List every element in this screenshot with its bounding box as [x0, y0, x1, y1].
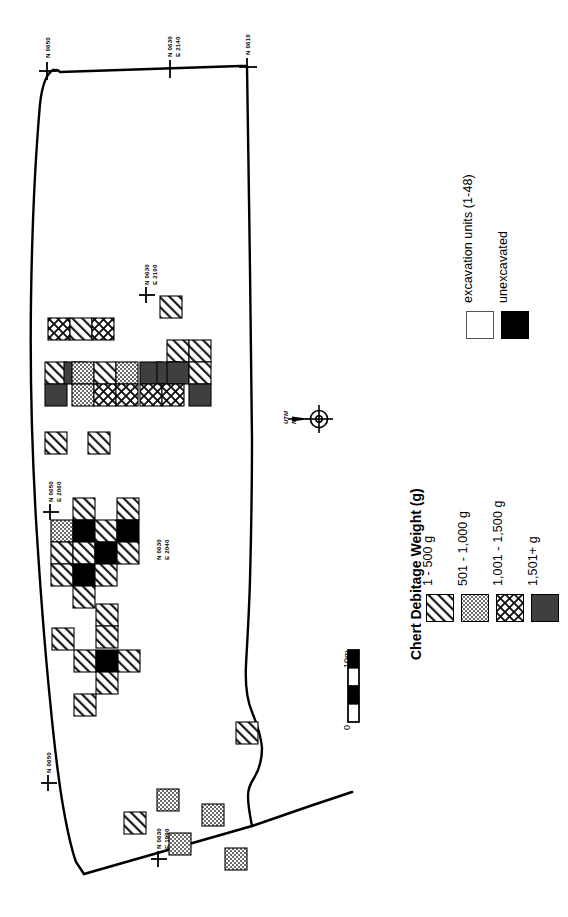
coord-label-n0630-e2040: N 0630E 2040 — [155, 539, 171, 560]
coord-label-n0630-e2140: N 0630E 2140 — [166, 36, 182, 57]
excavation-unit-cell — [96, 604, 118, 626]
excavation-unit-cell — [202, 804, 224, 826]
excavation-unit-cell — [73, 542, 95, 564]
excavation-unit-cell — [92, 318, 114, 340]
excavation-unit-cell — [117, 542, 139, 564]
legend-swatch-unexcavated — [501, 311, 529, 339]
excavation-unit-cell — [189, 362, 211, 384]
figure-canvas: N 0650 N 0630E 2140 N 0610 N 0630E 2100 … — [0, 0, 568, 917]
excavation-unit-cell — [189, 384, 211, 406]
excavation-unit-cell — [124, 812, 146, 834]
excavation-unit-cell — [160, 296, 182, 318]
coord-label-n0650-e2060: N 0650E 2060 — [47, 481, 63, 502]
north-arrow-label-utm: UTM — [283, 411, 290, 424]
excavation-unit-cell — [51, 520, 73, 542]
excavation-unit-cell — [236, 722, 258, 744]
legend-swatch-excavation-units — [466, 311, 494, 339]
site-map — [0, 0, 568, 917]
excavation-unit-cell — [116, 384, 138, 406]
excavation-unit-cell — [70, 318, 92, 340]
excavation-unit-cell — [94, 384, 116, 406]
excavation-unit-cell — [162, 384, 184, 406]
excavation-unit-cell — [51, 564, 73, 586]
legend-label-1501plus-g: 1,501+ g — [527, 536, 540, 586]
excavation-unit-cell — [225, 848, 247, 870]
excavation-unit-cell — [157, 789, 179, 811]
excavation-unit-cell — [96, 672, 118, 694]
excavation-unit-cell — [74, 650, 96, 672]
excavation-unit-cell — [117, 498, 139, 520]
excavation-unit-cell — [73, 498, 95, 520]
excavation-unit-cell — [51, 542, 73, 564]
site-boundary — [31, 66, 352, 874]
excavation-unit-cell — [117, 520, 139, 542]
coord-label-n0650-top: N 0650 — [44, 37, 52, 58]
legend-label-1-500g: 1 - 500 g — [422, 536, 435, 586]
excavation-unit-cell — [72, 362, 94, 384]
excavation-unit-cell — [94, 362, 116, 384]
excavation-unit-cell — [73, 564, 95, 586]
legend-label-unexcavated: unexcavated — [497, 231, 510, 303]
excavation-unit-cell — [45, 432, 67, 454]
excavation-unit-cell — [96, 650, 118, 672]
excavation-unit-cell — [189, 340, 211, 362]
excavation-unit-cell — [96, 626, 118, 648]
excavation-unit-cell — [167, 362, 189, 384]
excavation-unit-cell — [52, 628, 74, 650]
excavation-unit-cell — [74, 694, 96, 716]
excavation-unit-cell — [95, 520, 117, 542]
coord-label-n0630-e1990: N 0630E 1990 — [155, 828, 171, 849]
excavation-unit-cell — [88, 432, 110, 454]
excavation-unit-grid — [45, 296, 258, 870]
legend-label-501-1000g: 501 - 1,000 g — [457, 511, 470, 586]
coord-label-n0650-bottom: N 0650 — [45, 752, 53, 773]
excavation-unit-cell — [48, 318, 70, 340]
excavation-unit-cell — [118, 650, 140, 672]
legend-label-1001-1500g: 1,001 - 1,500 g — [492, 500, 505, 586]
legend-swatch-1001-1500g — [496, 594, 524, 622]
excavation-unit-cell — [95, 564, 117, 586]
legend-swatch-1-500g — [426, 594, 454, 622]
excavation-unit-cell — [73, 520, 95, 542]
excavation-unit-cell — [167, 340, 189, 362]
excavation-unit-cell — [45, 384, 67, 406]
legend-label-excavation-units: excavation units (1-48) — [462, 174, 475, 303]
north-arrow — [270, 388, 336, 452]
excavation-unit-cell — [72, 384, 94, 406]
coordinate-ticks — [39, 58, 257, 867]
legend-swatch-501-1000g — [461, 594, 489, 622]
excavation-unit-cell — [116, 362, 138, 384]
legend-swatch-1501plus-g — [531, 594, 559, 622]
excavation-unit-cell — [73, 586, 95, 608]
north-arrow-label-n: N — [291, 420, 298, 424]
excavation-unit-cell — [169, 833, 191, 855]
scale-bar-max-label: 10m — [343, 650, 352, 668]
excavation-unit-cell — [140, 384, 162, 406]
coord-label-n0630-e2100: N 0630E 2100 — [143, 264, 159, 285]
scale-bar-min-label: 0 — [343, 725, 352, 730]
coord-label-n0610: N 0610 — [244, 34, 252, 55]
excavation-unit-cell — [95, 542, 117, 564]
